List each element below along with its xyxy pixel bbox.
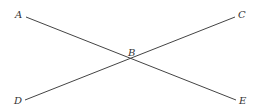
point-label-a: A <box>14 9 22 20</box>
diagram-canvas: A B C D E <box>0 0 261 112</box>
point-label-e: E <box>238 95 247 106</box>
intersecting-lines-diagram: A B C D E <box>0 0 261 112</box>
point-label-b: B <box>127 47 135 58</box>
point-label-d: D <box>13 95 22 106</box>
point-label-c: C <box>238 9 246 20</box>
